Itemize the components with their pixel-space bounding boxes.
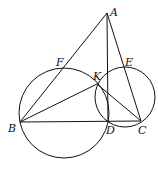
segment-ad	[107, 13, 108, 122]
segment-bc	[20, 121, 141, 122]
segment-bk	[20, 84, 97, 122]
segment-kc	[97, 84, 141, 121]
label-d: D	[105, 124, 115, 137]
label-a: A	[109, 6, 118, 19]
label-b: B	[7, 122, 16, 135]
circle-kecd	[95, 67, 155, 127]
label-f: F	[55, 56, 64, 69]
geometry-diagram: A B C D E F K	[0, 0, 158, 170]
label-k: K	[92, 70, 102, 83]
segment-ac	[107, 13, 141, 121]
label-c: C	[138, 124, 147, 137]
label-e: E	[124, 56, 133, 69]
